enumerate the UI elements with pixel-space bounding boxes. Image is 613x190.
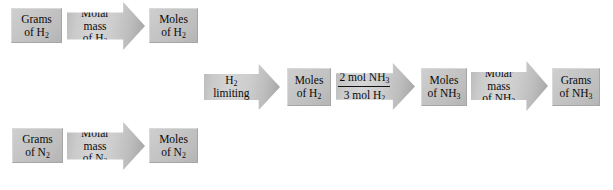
subscript: 2 — [317, 92, 321, 101]
node-grams-h2: Gramsof H2 — [11, 8, 62, 43]
subscript: 3 — [589, 92, 593, 101]
subscript: 2 — [104, 37, 108, 46]
node-grams-h2-label: Gramsof H2 — [19, 13, 54, 39]
node-moles-nh3: Molesof NH3 — [421, 68, 467, 106]
arrow-molar-mass-n2: Molarmassof N2 — [67, 122, 145, 170]
arrow-h2-limiting: H2limiting — [204, 64, 280, 110]
arrow-molar-mass-h2-label: Molarmassof H2 — [67, 7, 125, 46]
arrow-h2-limiting-label: H2limiting — [204, 74, 261, 100]
arrow-mole-ratio: 2 mol NH3 3 mol H2 — [336, 63, 415, 110]
mole-ratio-numerator: 2 mol NH3 — [336, 71, 392, 85]
mole-ratio-denominator: 3 mol H2 — [336, 88, 392, 102]
mole-ratio-fraction: 2 mol NH3 3 mol H2 — [336, 71, 392, 101]
node-moles-h2-main: Molesof H2 — [287, 68, 331, 106]
subscript: 2 — [46, 151, 50, 160]
node-moles-h2-top-label: Molesof H2 — [157, 13, 190, 39]
node-moles-h2-top: Molesof H2 — [149, 8, 198, 43]
subscript: 2 — [381, 94, 385, 103]
node-grams-n2: Gramsof N2 — [12, 128, 63, 163]
node-grams-n2-label: Gramsof N2 — [20, 133, 55, 159]
node-grams-nh3-label: Gramsof NH3 — [558, 74, 595, 100]
node-grams-nh3: Gramsof NH3 — [552, 68, 600, 106]
node-moles-nh3-label: Molesof NH3 — [426, 74, 463, 100]
fraction-bar — [338, 86, 390, 87]
node-moles-n2-label: Molesof N2 — [157, 133, 190, 159]
arrow-molar-mass-n2-label: Molarmassof N2 — [67, 127, 125, 166]
subscript: 3 — [385, 76, 389, 85]
stoichiometry-flowchart: Gramsof H2 Molarmassof H2 Molesof H2 H2l… — [0, 0, 613, 190]
subscript: 2 — [104, 157, 108, 166]
arrow-mole-ratio-label: 2 mol NH3 3 mol H2 — [336, 71, 395, 102]
arrow-molar-mass-nh3: Molarmassof NH3 — [471, 61, 548, 111]
node-moles-h2-main-label: Molesof H2 — [293, 74, 326, 100]
subscript: 3 — [511, 97, 515, 106]
node-moles-n2: Molesof N2 — [149, 128, 198, 163]
subscript: 2 — [182, 151, 186, 160]
arrow-molar-mass-nh3-label: Molarmassof NH3 — [471, 67, 528, 106]
subscript: 2 — [45, 31, 49, 40]
subscript: 3 — [457, 92, 461, 101]
arrow-molar-mass-h2: Molarmassof H2 — [67, 2, 145, 50]
subscript: 2 — [182, 31, 186, 40]
